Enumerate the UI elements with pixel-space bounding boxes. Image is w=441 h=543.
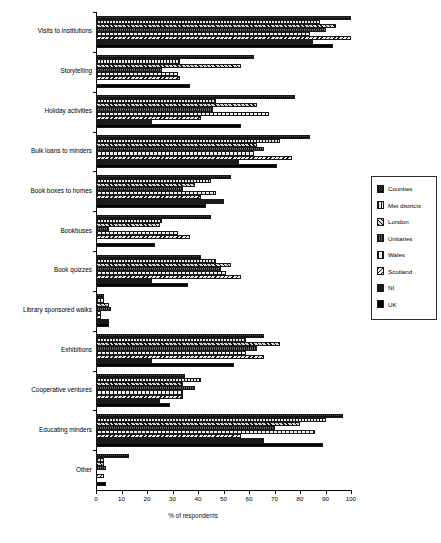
legend-swatch-icon [377, 300, 384, 308]
x-axis-label: % of respondents [0, 512, 441, 519]
bar-uk [96, 84, 190, 88]
y-axis-tick [93, 371, 96, 372]
legend-item-label: Counties [388, 185, 412, 192]
y-axis-tick [93, 251, 96, 252]
category-label: Educating minders [0, 426, 92, 434]
legend-item-met-districts: Met districts [377, 201, 421, 210]
x-axis-tick-label: 40 [187, 495, 209, 502]
legend-swatch-icon [377, 251, 384, 259]
bar-scotland [96, 474, 104, 478]
x-axis-tick [275, 490, 276, 494]
x-axis-tick [351, 490, 352, 494]
x-axis-tick [300, 490, 301, 494]
bar-uk [96, 363, 234, 367]
legend-item-label: Unitaries [388, 235, 412, 242]
x-axis-tick-label: 80 [289, 495, 311, 502]
y-axis-tick [93, 132, 96, 133]
x-axis-tick [198, 490, 199, 494]
x-axis-tick [326, 490, 327, 494]
x-axis-tick-label: 0 [85, 495, 107, 502]
category-label: Book boxes to homes [0, 187, 92, 195]
y-axis-tick [93, 171, 96, 172]
category-label: Cooperative ventures [0, 386, 92, 394]
bar-uk [96, 243, 155, 247]
y-axis-tick [93, 331, 96, 332]
y-axis-tick [93, 12, 96, 13]
legend-item-london: London [377, 217, 409, 226]
bar-scotland [96, 235, 190, 239]
x-axis-tick-label: 70 [264, 495, 286, 502]
category-label: Library sponsored walks [0, 306, 92, 314]
legend-swatch-icon [377, 284, 384, 292]
x-axis-tick [224, 490, 225, 494]
legend-item-label: Wales [388, 251, 405, 258]
x-axis-tick [96, 490, 97, 494]
legend-swatch-icon [377, 218, 384, 226]
bar-uk [96, 204, 206, 208]
y-axis-tick [93, 291, 96, 292]
x-axis-tick-label: 90 [315, 495, 337, 502]
chart-legend: CountiesMet districtsLondonUnitariesWale… [371, 176, 437, 320]
bar-uk [96, 323, 109, 327]
y-axis-tick [93, 92, 96, 93]
legend-item-uk: UK [377, 300, 397, 309]
y-axis-tick [93, 52, 96, 53]
legend-item-counties: Counties [377, 184, 412, 193]
bar-uk [96, 443, 323, 447]
x-axis-tick [173, 490, 174, 494]
x-axis-tick-label: 20 [136, 495, 158, 502]
x-axis-tick-label: 10 [111, 495, 133, 502]
bar-uk [96, 124, 241, 128]
x-axis-tick [122, 490, 123, 494]
y-axis-tick [93, 410, 96, 411]
x-axis-tick-label: 30 [162, 495, 184, 502]
legend-item-label: NI [388, 284, 394, 291]
legend-item-label: Met districts [388, 202, 421, 209]
y-axis-tick [93, 450, 96, 451]
x-axis-tick [147, 490, 148, 494]
x-axis-tick-label: 100 [340, 495, 362, 502]
bar-uk [96, 283, 188, 287]
legend-item-label: London [388, 218, 409, 225]
bar-uk [96, 482, 106, 486]
x-axis-tick-label: 50 [213, 495, 235, 502]
bar-scotland [96, 76, 180, 80]
legend-swatch-icon [377, 234, 384, 242]
bar-uk [96, 164, 277, 168]
chart-figure: 0102030405060708090100Visits to institut… [0, 0, 441, 543]
category-label: Book quizzes [0, 266, 92, 274]
category-label: Bookbuses [0, 227, 92, 235]
legend-swatch-icon [377, 267, 384, 275]
category-label: Exhibitions [0, 346, 92, 354]
legend-item-unitaries: Unitaries [377, 234, 412, 243]
x-axis-tick-label: 60 [238, 495, 260, 502]
x-axis-tick [249, 490, 250, 494]
bar-unitaries [96, 466, 106, 470]
category-label: Holiday activities [0, 107, 92, 115]
bar-uk [96, 403, 170, 407]
category-label: Bulk loans to minders [0, 147, 92, 155]
legend-item-ni: NI [377, 283, 394, 292]
category-label: Other [0, 466, 92, 474]
category-label: Visits to institutions [0, 27, 92, 35]
legend-item-label: UK [388, 301, 397, 308]
bar-uk [96, 44, 333, 48]
legend-item-wales: Wales [377, 250, 405, 259]
legend-item-scotland: Scotland [377, 267, 412, 276]
y-axis-tick [93, 211, 96, 212]
category-label: Storytelling [0, 67, 92, 75]
legend-swatch-icon [377, 185, 384, 193]
legend-swatch-icon [377, 201, 384, 209]
legend-item-label: Scotland [388, 268, 412, 275]
